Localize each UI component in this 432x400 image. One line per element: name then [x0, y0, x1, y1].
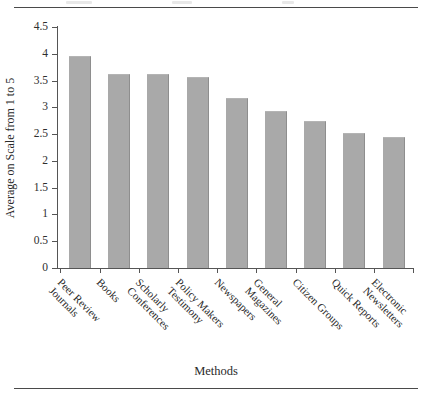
y-tick-label: 0 — [4, 262, 48, 274]
x-tick-mark — [60, 268, 61, 273]
bar — [304, 121, 326, 268]
y-tick-mark — [52, 27, 57, 28]
y-tick-label: 0.5 — [4, 235, 48, 247]
y-tick-mark — [52, 268, 57, 269]
x-tick-mark — [256, 268, 257, 273]
y-tick-label: 2.5 — [4, 128, 48, 140]
x-axis-title: Methods — [0, 364, 432, 379]
y-tick-mark — [52, 81, 57, 82]
y-tick-mark — [52, 161, 57, 162]
y-tick-label: 4 — [4, 48, 48, 60]
bar — [108, 74, 130, 268]
y-tick-label: 3 — [4, 102, 48, 114]
y-tick-mark — [52, 107, 57, 108]
y-tick-label: 1.5 — [4, 182, 48, 194]
y-tick-label: 1 — [4, 209, 48, 221]
bar — [147, 74, 169, 268]
y-tick-mark — [52, 188, 57, 189]
x-tick-mark — [374, 268, 375, 273]
y-tick-mark — [52, 134, 57, 135]
y-tick-mark — [52, 241, 57, 242]
bar — [69, 56, 91, 268]
y-tick-mark — [52, 214, 57, 215]
x-tick-mark — [139, 268, 140, 273]
x-category-label-line: Books — [94, 276, 123, 305]
bar-chart-figure: Average on Scale from 1 to 5 00.511.522.… — [0, 0, 432, 400]
y-tick-label: 2 — [4, 155, 48, 167]
y-tick-mark — [52, 54, 57, 55]
y-axis-line — [57, 26, 58, 269]
x-tick-mark — [217, 268, 218, 273]
bar — [226, 98, 248, 268]
bar — [265, 111, 287, 268]
bar — [383, 137, 405, 268]
x-category-label: Books — [94, 276, 123, 305]
bar — [187, 77, 209, 268]
x-tick-mark — [335, 268, 336, 273]
x-tick-mark — [178, 268, 179, 273]
clipped-caption-artifact — [14, 0, 418, 5]
x-tick-mark — [100, 268, 101, 273]
x-tick-mark — [413, 268, 414, 273]
figure-top-rule — [14, 7, 418, 8]
bar — [343, 133, 365, 268]
y-tick-label: 4.5 — [4, 21, 48, 33]
y-tick-label: 3.5 — [4, 75, 48, 87]
x-axis-line — [57, 268, 413, 269]
x-tick-mark — [296, 268, 297, 273]
figure-bottom-rule — [14, 388, 418, 389]
y-axis-title: Average on Scale from 1 to 5 — [3, 78, 18, 218]
